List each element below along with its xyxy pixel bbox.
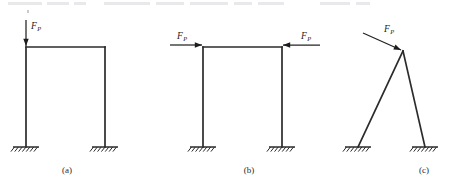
support-hatch-stroke xyxy=(267,147,271,152)
force-arrowhead xyxy=(195,42,202,47)
force-label: F xyxy=(30,21,37,31)
fixed-support xyxy=(343,147,371,152)
structural-frames-diagram: FP(a)FPFP(b)FP(c) xyxy=(0,0,464,184)
force-label-subscript: P xyxy=(306,35,311,42)
panel-c: FP(c) xyxy=(343,24,438,175)
figure-container: FP(a)FPFP(b)FP(c) xyxy=(0,0,464,184)
force-arrowhead xyxy=(393,45,401,50)
scan-artifact-bar xyxy=(190,2,228,5)
force-horizontal-load-left: FP xyxy=(170,31,202,48)
fixed-support xyxy=(11,147,39,152)
support-hatch-stroke xyxy=(188,147,192,152)
panel-b: FPFP(b) xyxy=(170,31,320,175)
support-hatch-stroke xyxy=(343,147,347,152)
fixed-support xyxy=(410,147,438,152)
panels-layer: FP(a)FPFP(b)FP(c) xyxy=(11,20,438,175)
force-arrowhead xyxy=(23,39,28,46)
support-hatch-stroke xyxy=(90,147,94,152)
support-hatch-stroke xyxy=(11,147,15,152)
scan-artifact-bar xyxy=(234,2,252,5)
force-horizontal-load-right: FP xyxy=(283,31,320,48)
scan-artifact-bar xyxy=(356,2,370,5)
fixed-support xyxy=(90,147,118,152)
frame-leg xyxy=(358,51,403,147)
scan-artifact-bar xyxy=(156,2,184,5)
fixed-support xyxy=(267,147,295,152)
force-vertical-point-load: FP xyxy=(23,20,41,46)
frame-leg xyxy=(403,51,425,147)
panel-a: FP(a) xyxy=(11,20,118,175)
panel-caption-c: (c) xyxy=(419,165,429,175)
scan-artifact-speck xyxy=(27,10,29,13)
scan-artifact-bar xyxy=(258,2,284,5)
force-label-subscript: P xyxy=(389,28,394,35)
force-label-subscript: P xyxy=(36,25,41,32)
fixed-support xyxy=(188,147,216,152)
scan-artifact-bar xyxy=(74,2,86,5)
force-label: F xyxy=(383,24,390,34)
scan-artifact-bar xyxy=(320,2,350,5)
panel-caption-a: (a) xyxy=(62,165,72,175)
force-arrowhead xyxy=(283,42,290,47)
force-label-subscript: P xyxy=(182,35,187,42)
scan-artifact-bar xyxy=(47,2,69,5)
force-label: F xyxy=(176,31,183,41)
panel-caption-b: (b) xyxy=(244,165,255,175)
force-inclined-load-apex: FP xyxy=(363,24,401,50)
support-hatch-stroke xyxy=(410,147,414,152)
scan-artifacts xyxy=(8,2,370,13)
force-label: F xyxy=(300,31,307,41)
scan-artifact-bar xyxy=(8,2,42,5)
scan-artifact-bar xyxy=(104,2,150,5)
